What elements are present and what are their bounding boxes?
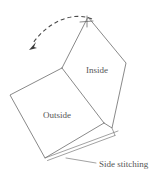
figure-canvas: Inside Outside Side stitching (0, 0, 160, 175)
fold-direction-arrowhead-icon (29, 42, 37, 50)
side-stitching-leader-line (66, 158, 96, 163)
folded-panel-diagram: Inside Outside Side stitching (0, 0, 160, 175)
label-outside: Outside (43, 110, 71, 120)
side-seam-end-cap (112, 128, 115, 136)
label-inside: Inside (86, 65, 108, 75)
label-side-stitching: Side stitching (99, 159, 149, 169)
